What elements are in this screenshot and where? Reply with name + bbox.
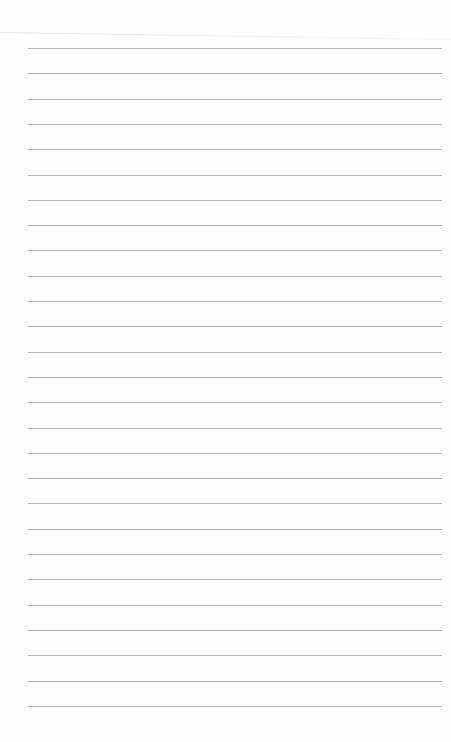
ruled-line <box>28 377 442 378</box>
ruled-line <box>28 99 442 100</box>
ruled-line <box>28 124 442 125</box>
ruled-line <box>28 503 442 504</box>
ruled-line <box>28 301 442 302</box>
ruled-line <box>28 149 442 150</box>
ruled-line <box>28 73 442 74</box>
ruled-line <box>28 605 442 606</box>
ruled-line <box>28 478 442 479</box>
ruled-line <box>28 200 442 201</box>
ruled-line <box>28 655 442 656</box>
ruled-line <box>28 326 442 327</box>
ruled-line <box>28 175 442 176</box>
ruled-line <box>28 554 442 555</box>
ruled-line <box>28 681 442 682</box>
ruled-line <box>28 706 442 707</box>
ruled-line <box>28 529 442 530</box>
ruled-line <box>28 453 442 454</box>
ruled-line <box>28 428 442 429</box>
ruled-line <box>28 579 442 580</box>
ruled-line <box>28 250 442 251</box>
ruled-line <box>28 352 442 353</box>
lined-paper-sheet <box>0 0 451 742</box>
ruled-line <box>28 276 442 277</box>
ruled-line <box>28 630 442 631</box>
ruled-line <box>28 225 442 226</box>
paper-top-edge <box>0 32 451 40</box>
ruled-line <box>28 402 442 403</box>
ruled-line <box>28 48 442 49</box>
